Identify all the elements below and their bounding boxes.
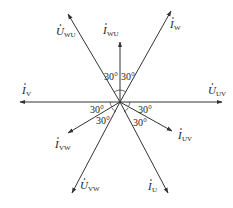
phasor-diagram: UUVIVUWUIWUIWIVWUVWIUVIU 30°30°30°30°30°… <box>0 0 233 208</box>
vector-labels: UUVIVUWUIWUIWIVWUVWIUVIU <box>21 17 226 194</box>
vector-subscript: W <box>174 24 181 32</box>
angle-label: 30° <box>133 117 147 128</box>
phasor-dot-icon <box>84 178 86 180</box>
phasor-dot-icon <box>105 23 107 25</box>
angle-label: 30° <box>96 115 110 126</box>
angle-label: 30° <box>104 71 118 82</box>
phasor-dot-icon <box>57 137 59 139</box>
angle-arc <box>110 102 112 107</box>
vector-subscript: V <box>26 90 31 98</box>
angle-label: 30° <box>138 104 152 115</box>
vector-subscript: VW <box>88 185 100 193</box>
phasor-dot-icon <box>212 83 214 85</box>
phasor-dot-icon <box>150 179 152 181</box>
vector-subscript: WU <box>64 31 76 39</box>
vector-subscript: U <box>152 186 157 194</box>
angle-label: 30° <box>121 71 135 82</box>
vector-subscript: UV <box>182 135 192 143</box>
angle-label: 30° <box>90 104 104 115</box>
vector-u-wu <box>68 14 120 102</box>
phasor-dot-icon <box>172 17 174 19</box>
phasor-dot-icon <box>180 128 182 130</box>
angle-arc <box>128 102 130 107</box>
phasor-dot-icon <box>60 24 62 26</box>
vector-subscript: WU <box>107 30 119 38</box>
vector-subscript: UV <box>216 90 226 98</box>
phasor-vectors <box>20 11 222 193</box>
vector-subscript: VW <box>59 144 71 152</box>
vector-i-w <box>120 11 171 102</box>
phasor-dot-icon <box>24 83 26 85</box>
